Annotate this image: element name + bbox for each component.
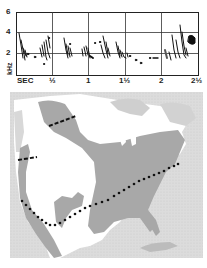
- x-tick-half: ½: [49, 77, 56, 85]
- spectrogram-plot: [0, 0, 207, 88]
- spectrogram-chart: 6 4 2 kHz: [0, 0, 207, 88]
- x-tick-2: 2: [159, 77, 163, 85]
- x-tick-1half: 1½: [119, 77, 130, 85]
- x-axis-label: SEC: [17, 77, 33, 85]
- x-tick-1: 1: [86, 77, 90, 85]
- spectrogram-notes: [19, 25, 195, 65]
- x-tick-2half: 2½: [191, 77, 202, 85]
- figure: 6 4 2 kHz: [0, 0, 207, 268]
- range-map: [10, 92, 203, 258]
